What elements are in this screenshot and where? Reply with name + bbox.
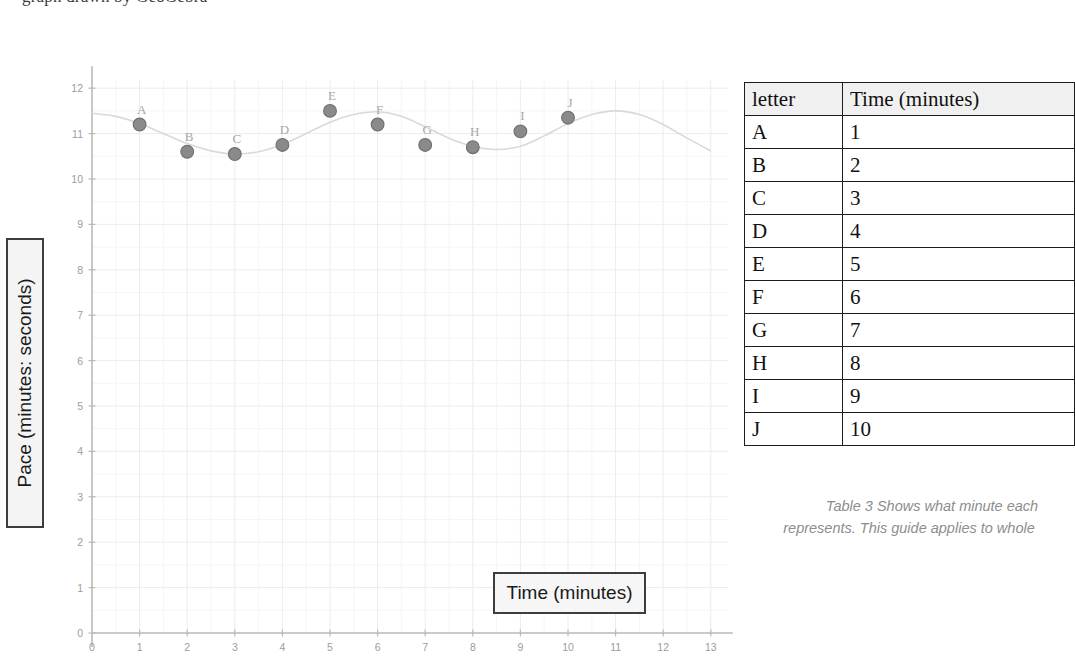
data-point <box>228 148 241 161</box>
x-tick-label: 4 <box>279 641 285 653</box>
letter-time-table: letter Time (minutes) A1B2C3D4E5F6G7H8I9… <box>744 82 1075 446</box>
x-tick-label: 11 <box>610 641 621 653</box>
data-point-label: G <box>423 122 432 137</box>
table-cell-time: 9 <box>843 380 1075 413</box>
y-tick-label: 11 <box>72 128 83 140</box>
chart-area: 0123456789101112 012345678910111213 ABCD… <box>0 0 740 658</box>
y-tick-label: 1 <box>77 582 83 594</box>
x-axis-label-text: Time (minutes) <box>507 582 633 604</box>
y-tick-label: 6 <box>77 355 83 367</box>
table-caption-line-2: represents. This guide applies to whole <box>744 517 1074 539</box>
y-tick-label: 5 <box>77 400 83 412</box>
table-header-letter: letter <box>745 83 843 116</box>
x-tick-label: 6 <box>375 641 381 653</box>
data-point <box>133 118 146 131</box>
table-cell-time: 10 <box>843 413 1075 446</box>
table-header-row: letter Time (minutes) <box>745 83 1075 116</box>
y-tick-label: 2 <box>77 536 83 548</box>
x-tick-label: 12 <box>657 641 669 653</box>
chart-svg: 0123456789101112 012345678910111213 ABCD… <box>0 0 740 658</box>
data-point-label: E <box>328 88 336 103</box>
table-row: F6 <box>745 281 1075 314</box>
data-point <box>324 105 337 118</box>
table-row: H8 <box>745 347 1075 380</box>
data-point-label: H <box>470 124 479 139</box>
x-axis-label-box: Time (minutes) <box>493 572 646 614</box>
y-tick-label: 7 <box>77 309 83 321</box>
table-row: B2 <box>745 149 1075 182</box>
y-tick-label: 10 <box>71 173 83 185</box>
table-cell-letter: C <box>745 182 843 215</box>
y-tick-label: 4 <box>77 445 83 457</box>
grid-major-lines <box>92 80 729 633</box>
y-tick-label: 3 <box>77 491 83 503</box>
table-cell-letter: I <box>745 380 843 413</box>
table-cell-letter: A <box>745 116 843 149</box>
table-cell-time: 4 <box>843 215 1075 248</box>
table-cell-time: 3 <box>843 182 1075 215</box>
table-cell-time: 2 <box>843 149 1075 182</box>
y-axis-label-text: Pace (minutes: seconds) <box>14 278 36 487</box>
y-axis-label-box: Pace (minutes: seconds) <box>6 238 44 528</box>
x-tick-label: 9 <box>517 641 523 653</box>
x-tick-label: 2 <box>184 641 190 653</box>
table-cell-letter: D <box>745 215 843 248</box>
table-caption-line-1: Table 3 Shows what minute each <box>744 495 1074 517</box>
y-tick-label: 9 <box>77 218 83 230</box>
table-row: J10 <box>745 413 1075 446</box>
table-header-time: Time (minutes) <box>843 83 1075 116</box>
data-point-label: I <box>520 108 524 123</box>
x-tick-label: 3 <box>232 641 238 653</box>
x-tick-label: 13 <box>705 641 717 653</box>
y-tick-label: 0 <box>77 627 83 639</box>
data-point <box>562 111 575 124</box>
table-row: I9 <box>745 380 1075 413</box>
data-point <box>514 125 527 138</box>
table-row: G7 <box>745 314 1075 347</box>
letter-time-table-wrapper: letter Time (minutes) A1B2C3D4E5F6G7H8I9… <box>744 82 1074 446</box>
data-point <box>466 141 479 154</box>
x-tick-label: 1 <box>137 641 143 653</box>
data-point-label: B <box>185 129 194 144</box>
x-tick-label: 10 <box>562 641 574 653</box>
table-row: D4 <box>745 215 1075 248</box>
table-row: A1 <box>745 116 1075 149</box>
y-tick-label: 8 <box>77 264 83 276</box>
table-cell-time: 8 <box>843 347 1075 380</box>
table-cell-letter: H <box>745 347 843 380</box>
table-cell-time: 7 <box>843 314 1075 347</box>
table-cell-letter: J <box>745 413 843 446</box>
data-point <box>419 139 432 152</box>
y-axis-tick-labels: 0123456789101112 <box>71 82 83 639</box>
data-point-label: F <box>376 102 383 117</box>
x-tick-label: 0 <box>89 641 95 653</box>
table-cell-letter: B <box>745 149 843 182</box>
data-point-label: C <box>232 131 241 146</box>
data-point <box>371 118 384 131</box>
table-cell-letter: G <box>745 314 843 347</box>
data-point-label: A <box>137 102 147 117</box>
table-row: E5 <box>745 248 1075 281</box>
data-point-label: J <box>567 95 572 110</box>
data-point-labels: ABCDEFGHIJ <box>137 88 573 146</box>
data-point <box>276 139 289 152</box>
table-cell-letter: F <box>745 281 843 314</box>
table-caption: Table 3 Shows what minute each represent… <box>744 495 1074 540</box>
x-tick-label: 8 <box>470 641 476 653</box>
table-row: C3 <box>745 182 1075 215</box>
table-cell-time: 6 <box>843 281 1075 314</box>
table-cell-time: 1 <box>843 116 1075 149</box>
table-cell-time: 5 <box>843 248 1075 281</box>
data-point <box>181 145 194 158</box>
x-tick-label: 5 <box>327 641 333 653</box>
data-point-label: D <box>280 122 289 137</box>
y-tick-label: 12 <box>71 82 83 94</box>
x-axis-tick-labels: 012345678910111213 <box>89 641 717 653</box>
table-cell-letter: E <box>745 248 843 281</box>
x-tick-label: 7 <box>422 641 428 653</box>
